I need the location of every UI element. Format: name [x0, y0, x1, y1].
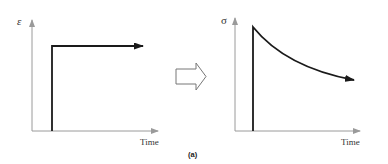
- stress-plot: σ Time: [221, 14, 360, 147]
- strain-y-label: ε: [17, 15, 22, 27]
- relaxation-diagram: ε Time σ Time (a): [0, 0, 388, 164]
- figure-caption: (a): [188, 150, 198, 159]
- strain-step-curve: [52, 46, 143, 131]
- stress-x-label: Time: [341, 137, 360, 147]
- stress-decay-curve: [253, 27, 354, 131]
- strain-x-label: Time: [140, 137, 159, 147]
- stress-y-label: σ: [221, 14, 227, 26]
- strain-plot: ε Time: [17, 15, 159, 147]
- hollow-right-arrow-icon: [176, 63, 206, 90]
